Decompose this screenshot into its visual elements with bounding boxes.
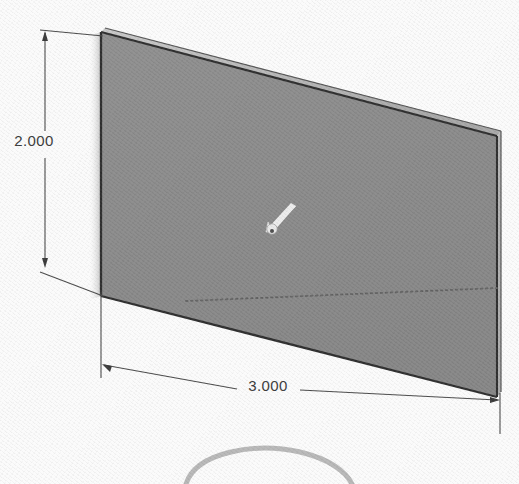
cad-drawing-canvas: 2.000 3.000 [0,0,519,484]
cad-viewport: 2.000 3.000 [0,0,519,484]
width-arrowhead-right [490,397,500,403]
height-extension-line-top [40,30,103,36]
width-dimension-line-left [104,365,237,389]
width-dimension-label: 3.000 [248,377,288,394]
plate-left-shadow [88,32,101,300]
plate-front-face [101,32,497,397]
width-arrowhead-left [102,364,112,372]
height-dimension-label: 2.000 [14,132,54,149]
background-arc [186,448,352,484]
width-dimension-line-right [300,390,497,400]
height-arrowhead-top [42,31,48,41]
plate-solid [88,28,501,397]
height-arrowhead-bottom [42,258,48,268]
